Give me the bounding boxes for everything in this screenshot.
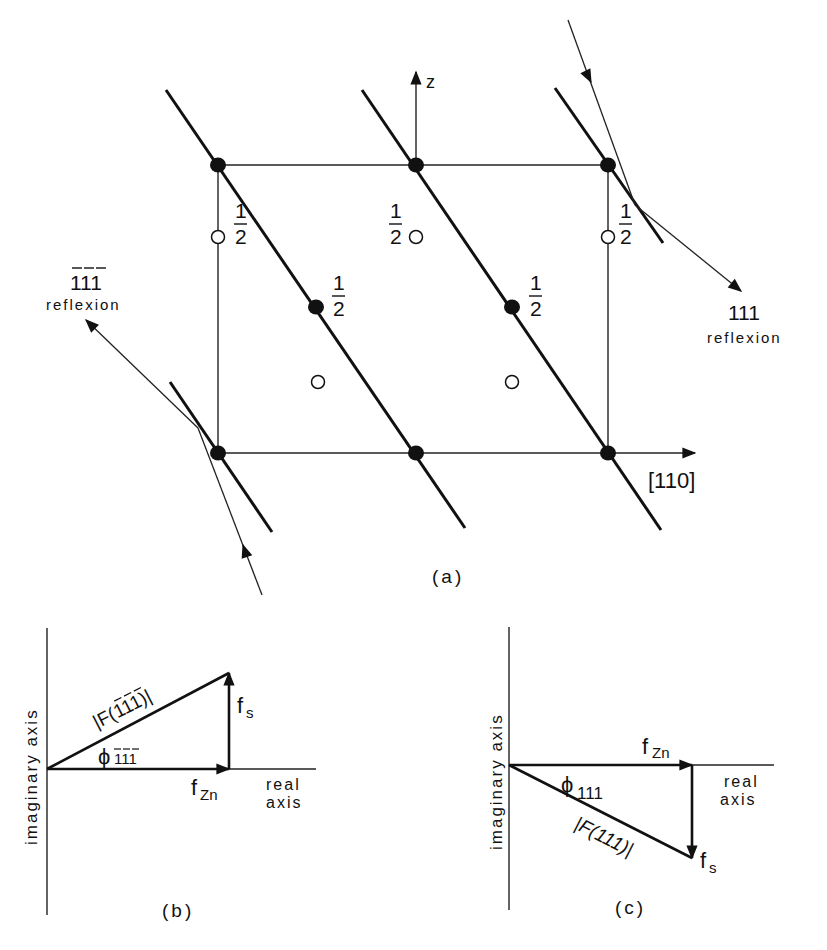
diagram-canvas: [110] z 111 reflexion	[0, 0, 827, 950]
svg-text:1: 1	[530, 271, 542, 294]
real-axis-label: real	[724, 773, 759, 790]
svg-text:s: s	[246, 704, 254, 721]
svg-text:2: 2	[333, 297, 345, 320]
panel-b: imaginary axis real axis f s f Zn |F(111…	[22, 628, 316, 921]
atoms-filled	[210, 158, 616, 461]
svg-text:|F(111)|: |F(111)|	[571, 813, 637, 860]
beam-111	[568, 20, 741, 291]
panel-b-label: (b)	[162, 900, 194, 921]
beam-111-bar	[86, 320, 262, 595]
half-label: 1 2	[619, 199, 632, 248]
svg-text:ϕ: ϕ	[561, 772, 573, 797]
svg-text:1: 1	[333, 271, 345, 294]
panel-a: [110] z 111 reflexion	[46, 20, 782, 595]
svg-text:2: 2	[530, 297, 542, 320]
label-phase: ϕ 111	[561, 772, 603, 803]
vector-F	[47, 673, 229, 769]
half-labels: 1 2 1 2 1 2 1 2 1 2	[234, 199, 632, 320]
panel-c-label: (c)	[615, 897, 646, 918]
svg-text:111: 111	[728, 301, 760, 324]
real-axis-label: axis	[720, 791, 756, 808]
svg-text:111: 111	[577, 784, 603, 803]
svg-text:1: 1	[390, 199, 402, 222]
svg-text:ϕ: ϕ	[98, 744, 110, 769]
imaginary-axis-label: imaginary axis	[22, 708, 41, 845]
lattice-planes	[166, 88, 663, 532]
label-f-s: f s	[700, 848, 717, 876]
label-magnitude-F: |F(111)|	[89, 685, 155, 732]
svg-text:1: 1	[235, 199, 247, 222]
svg-text:Zn: Zn	[652, 744, 670, 761]
half-label: 1 2	[529, 271, 542, 320]
panel-c: imaginary axis real axis f Zn f s ϕ 111 …	[487, 627, 774, 918]
svg-text:reflexion: reflexion	[707, 329, 782, 346]
half-label: 1 2	[389, 199, 402, 248]
reflexion-label-left: 111 reflexion	[46, 268, 121, 313]
svg-text:2: 2	[620, 225, 632, 248]
label-magnitude-F: |F(111)|	[571, 813, 637, 860]
svg-text:1: 1	[620, 199, 632, 222]
imaginary-axis-label: imaginary axis	[487, 713, 506, 850]
svg-text:s: s	[709, 859, 717, 876]
svg-text:f: f	[700, 848, 707, 873]
svg-text:Zn: Zn	[200, 786, 218, 803]
half-label: 1 2	[332, 271, 345, 320]
label-f-zn: f Zn	[642, 734, 670, 761]
svg-text:111: 111	[70, 271, 102, 294]
svg-text:2: 2	[390, 225, 402, 248]
label-f-s: f s	[237, 693, 254, 721]
label-f-zn: f Zn	[191, 775, 218, 803]
svg-text:2: 2	[235, 225, 247, 248]
svg-text:f: f	[237, 693, 244, 718]
real-axis-label: axis	[266, 794, 302, 811]
unit-cell-frame	[218, 165, 608, 453]
svg-text:f: f	[191, 775, 198, 800]
svg-text:f: f	[642, 734, 649, 759]
real-axis-label: real	[266, 776, 301, 793]
half-label: 1 2	[234, 199, 247, 248]
svg-text:111: 111	[114, 750, 137, 767]
svg-text:|F(111)|: |F(111)|	[89, 685, 155, 732]
reflexion-label-right: 111 reflexion	[707, 301, 782, 346]
panel-a-label: (a)	[432, 566, 464, 587]
svg-text:reflexion: reflexion	[46, 296, 121, 313]
atoms-open	[212, 231, 615, 389]
axis-z-label: z	[426, 72, 435, 92]
label-phase: ϕ 111	[98, 744, 139, 769]
axis-110-label: [110]	[648, 468, 695, 493]
